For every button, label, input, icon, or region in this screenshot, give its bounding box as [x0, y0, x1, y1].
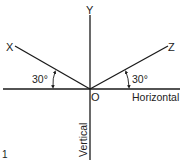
left-angle-arc-icon: [53, 72, 55, 87]
origin-label: O: [91, 91, 100, 103]
left-angle-label: 30°: [32, 73, 48, 85]
z-axis-label: Z: [168, 41, 175, 53]
figure-number: 1: [2, 149, 8, 160]
vertical-label: Vertical: [77, 123, 89, 157]
horizontal-label: Horizontal: [132, 91, 179, 103]
isometric-axes-diagram: Y X Z O Horizontal Vertical 30° 30° 1: [0, 0, 184, 164]
y-axis-label: Y: [86, 4, 94, 16]
x-axis-label: X: [6, 41, 14, 53]
right-angle-label: 30°: [132, 73, 148, 85]
right-angle-arc-icon: [126, 72, 129, 87]
